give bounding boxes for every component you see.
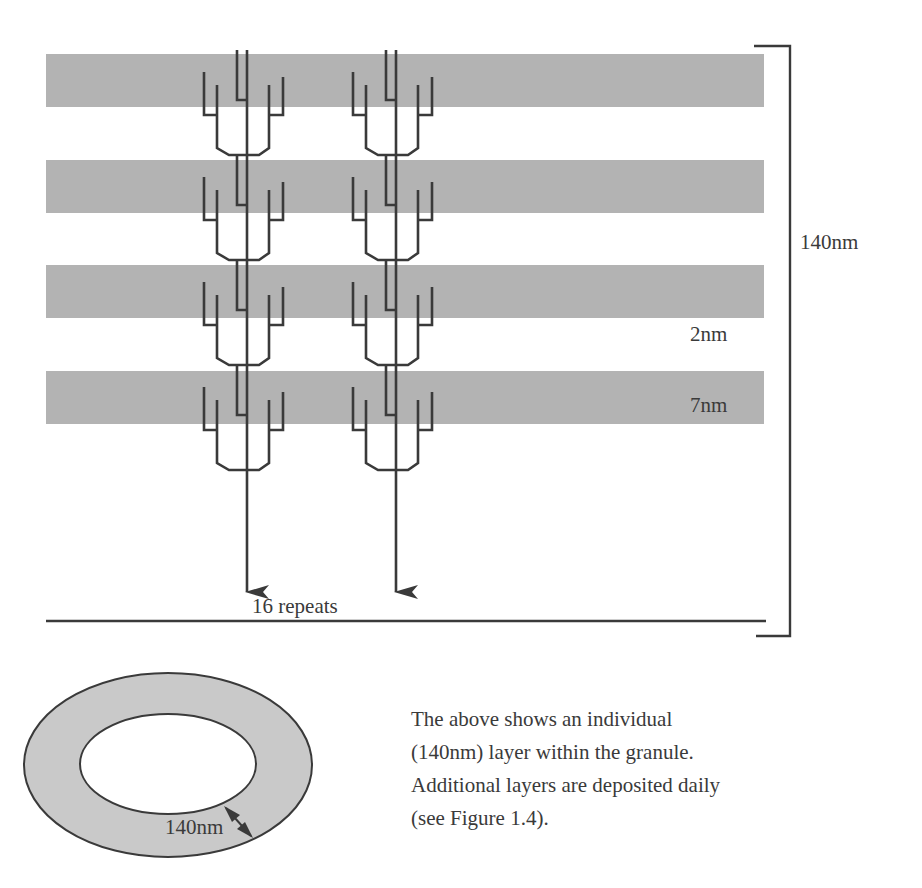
caption-line: The above shows an individual	[411, 703, 831, 736]
repeats-label: 16 repeats	[252, 594, 338, 619]
band-thickness-label: 7nm	[690, 393, 727, 418]
thickness-bracket	[754, 46, 790, 636]
lipid-bands	[46, 54, 764, 424]
caption-line: (see Figure 1.4).	[411, 802, 831, 835]
ring-thickness-label: 140nm	[165, 815, 223, 840]
caption-line: Additional layers are deposited daily	[411, 769, 831, 802]
molecule-column-2	[353, 50, 432, 592]
caption-line: (140nm) layer within the granule.	[411, 736, 831, 769]
molecule-column-1	[204, 50, 283, 592]
gap-thickness-label: 2nm	[690, 322, 727, 347]
figure-caption: The above shows an individual (140nm) la…	[411, 703, 831, 835]
total-thickness-label: 140nm	[800, 230, 858, 255]
